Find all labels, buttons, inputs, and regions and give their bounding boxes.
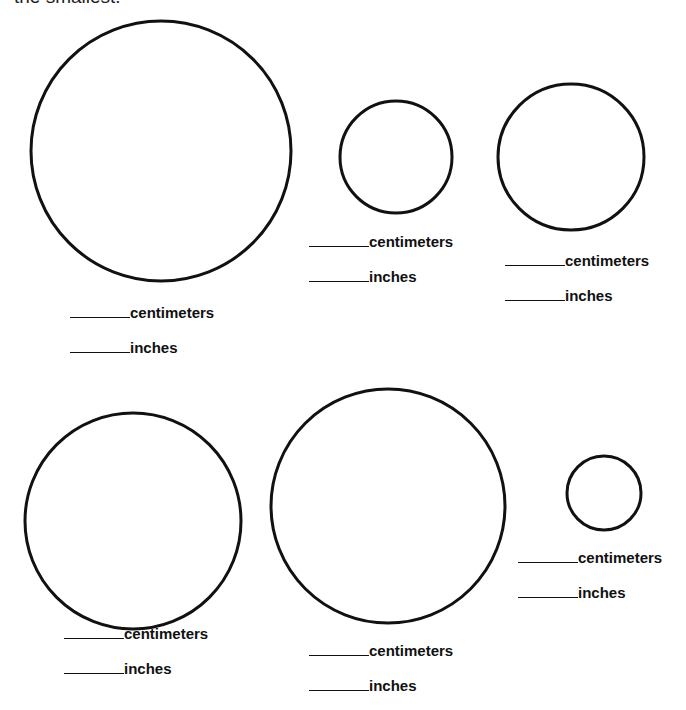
circle-4-cm-row: centimeters [64,624,208,643]
circle-4-in-row: inches [64,659,172,678]
circle-2-cm-label: centimeters [369,233,453,250]
circle-5-cm-row: centimeters [309,641,453,660]
circle-3-in-label: inches [565,287,613,304]
circle-1-cm-row: centimeters [70,303,214,322]
circle-2-in-blank[interactable] [309,267,369,282]
circle-1 [31,21,291,281]
circle-2-in-label: inches [369,268,417,285]
circle-6 [567,456,641,530]
circle-5-in-blank[interactable] [309,676,369,691]
circle-6-in-row: inches [518,583,626,602]
circle-3 [498,84,644,230]
circle-6-in-blank[interactable] [518,583,578,598]
circle-5-cm-label: centimeters [369,642,453,659]
circle-3-cm-blank[interactable] [505,251,565,266]
circle-1-cm-label: centimeters [130,304,214,321]
circle-2 [340,101,452,213]
circle-4-in-label: inches [124,660,172,677]
circle-3-cm-label: centimeters [565,252,649,269]
circle-3-in-row: inches [505,286,613,305]
circle-4-cm-label: centimeters [124,625,208,642]
circle-4-cm-blank[interactable] [64,624,124,639]
circle-5 [271,389,505,623]
circle-1-in-blank[interactable] [70,338,130,353]
circle-2-in-row: inches [309,267,417,286]
circle-5-in-label: inches [369,677,417,694]
circle-1-in-label: inches [130,339,178,356]
circle-6-in-label: inches [578,584,626,601]
circle-6-cm-row: centimeters [518,548,662,567]
circle-2-cm-blank[interactable] [309,232,369,247]
circle-6-cm-label: centimeters [578,549,662,566]
circle-2-cm-row: centimeters [309,232,453,251]
circle-6-cm-blank[interactable] [518,548,578,563]
circle-3-in-blank[interactable] [505,286,565,301]
circle-5-in-row: inches [309,676,417,695]
circle-1-in-row: inches [70,338,178,357]
circle-4-in-blank[interactable] [64,659,124,674]
circle-5-cm-blank[interactable] [309,641,369,656]
circle-3-cm-row: centimeters [505,251,649,270]
circle-1-cm-blank[interactable] [70,303,130,318]
circle-4 [25,413,241,629]
